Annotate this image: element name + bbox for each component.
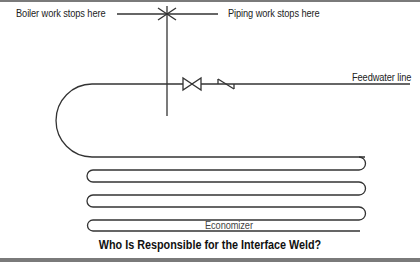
boiler-work-label: Boiler work stops here <box>16 7 105 19</box>
piping-work-label: Piping work stops here <box>228 7 320 19</box>
feedwater-line-label: Feedwater line <box>352 71 411 83</box>
gate-valve-icon <box>183 78 201 90</box>
figure-caption: Who Is Responsible for the Interface Wel… <box>21 238 399 252</box>
economizer-label: Economizer <box>205 219 253 231</box>
bottom-border <box>0 258 420 262</box>
u-bend-pipe <box>56 84 365 157</box>
